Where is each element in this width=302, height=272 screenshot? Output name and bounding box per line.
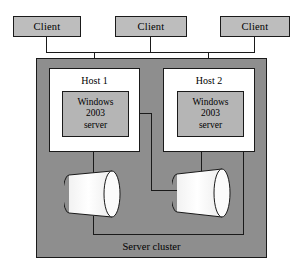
- host-2-cross-link-horizontal: [93, 234, 244, 235]
- host-1-os-line-1: Windows: [77, 97, 113, 109]
- client-label-1: Client: [34, 21, 61, 32]
- client-2-drop-line: [150, 37, 151, 53]
- host-1-os-text: Windows 2003 server: [77, 97, 113, 132]
- client-label-3: Client: [242, 21, 269, 32]
- host-1-label: Host 1: [50, 75, 139, 86]
- shared-disk-left: [64, 168, 124, 220]
- host-2-cross-link-vertical: [243, 152, 244, 234]
- client-1-drop-line: [46, 37, 47, 53]
- client-box-3: Client: [220, 16, 290, 37]
- host-1-box: Host 1 Windows 2003 server: [49, 68, 140, 152]
- host-2-os-line-2: 2003: [192, 108, 228, 120]
- host-1-os-box: Windows 2003 server: [62, 91, 129, 137]
- shared-disk-right: [172, 166, 234, 220]
- server-cluster-label: Server cluster: [36, 241, 267, 252]
- host-2-os-line-1: Windows: [192, 97, 228, 109]
- host-1-cross-link-vertical: [151, 113, 152, 191]
- client-3-drop-line: [254, 37, 255, 53]
- client-box-2: Client: [115, 16, 187, 37]
- host-1-os-line-3: server: [77, 120, 113, 132]
- client-label-2: Client: [138, 21, 165, 32]
- host-2-os-line-3: server: [192, 120, 228, 132]
- host-2-os-text: Windows 2003 server: [192, 97, 228, 132]
- bus-left-segment: [94, 52, 95, 53]
- client-bus-line: [46, 52, 255, 53]
- host-2-box: Host 2 Windows 2003 server: [163, 68, 255, 152]
- host-2-label: Host 2: [164, 75, 254, 86]
- diagram-canvas: Client Client Client Host 1 Windows 2003…: [0, 0, 302, 272]
- host-2-os-box: Windows 2003 server: [177, 91, 244, 137]
- host-1-os-line-2: 2003: [77, 108, 113, 120]
- client-box-1: Client: [13, 16, 81, 37]
